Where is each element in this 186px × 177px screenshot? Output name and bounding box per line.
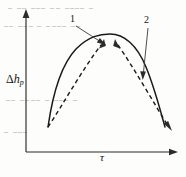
y-axis-label-subscript: p [20,78,24,87]
callout-1-leader [76,26,106,45]
apex-arrowhead-right [113,39,120,49]
figure-canvas: ⎯ ⎯⎯ ⎯⎯⎯ ⎯⎯ ⎯⎯⎯⎯ ⎯ ⎯⎯ ⎯⎯⎯ ⎯ ⎯⎯⎯⎯ ⎯⎯ ⎯⎯ ⎯… [0,0,186,177]
y-axis-label-delta: Δ [6,72,14,86]
curve-1-callout-label: 1 [70,14,75,24]
curve-1-solid [48,34,165,127]
plot-svg [0,0,186,177]
curve-2-dashed [48,45,168,127]
x-axis-label: τ [100,152,104,163]
callout-2-leader [140,28,148,80]
curve-2-callout-label: 2 [144,15,149,25]
y-axis-label: Δhp [6,73,24,87]
